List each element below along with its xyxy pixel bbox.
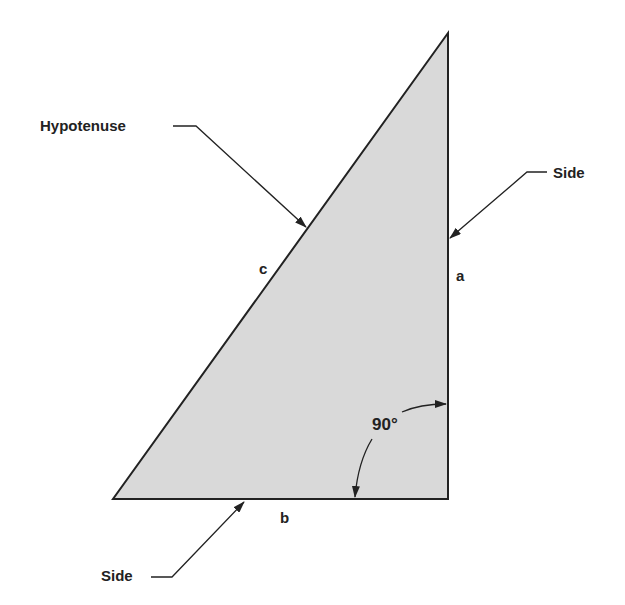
side-letter-a: a [456,267,465,284]
diagram-canvas: Hypotenuse Side Side a b c 90° [0,0,625,605]
side-right-arrow [450,172,547,238]
side-bottom-callout: Side [101,502,244,584]
side-letter-b: b [280,509,289,526]
right-triangle [113,33,448,499]
side-bottom-arrow [151,502,244,577]
hypotenuse-callout: Hypotenuse [40,117,306,227]
hypotenuse-label: Hypotenuse [40,117,126,134]
side-letter-c: c [259,260,267,277]
side-bottom-label: Side [101,567,133,584]
side-right-callout: Side [450,164,585,238]
angle-label: 90° [372,415,398,434]
side-right-label: Side [553,164,585,181]
hypotenuse-arrow [173,126,306,227]
